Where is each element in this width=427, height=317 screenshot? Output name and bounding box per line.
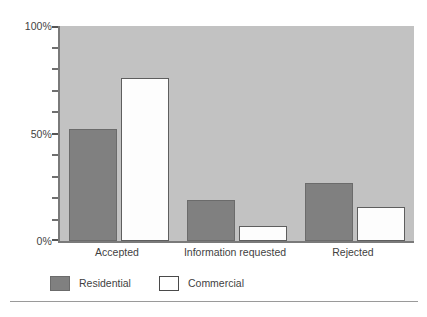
x-axis: AcceptedInformation requestedRejected — [58, 245, 412, 261]
legend-swatch-commercial — [159, 276, 179, 291]
bottom-divider — [10, 301, 418, 302]
y-tick-label: 100% — [0, 21, 52, 32]
bar-commercial-rejected — [357, 207, 405, 241]
legend-entry: Residential — [50, 276, 131, 291]
legend-label: Residential — [79, 277, 131, 289]
x-tick-label: Rejected — [294, 245, 412, 259]
legend-swatch-residential — [50, 276, 70, 291]
bar-residential-rejected — [305, 183, 353, 241]
plot-area — [58, 26, 414, 243]
bar-group — [60, 26, 178, 241]
y-axis: 0%50%100% — [0, 0, 52, 317]
bar-commercial-accepted — [121, 78, 169, 241]
legend-entry: Commercial — [159, 276, 244, 291]
x-tick-label: Information requested — [176, 245, 294, 259]
legend-label: Commercial — [188, 277, 244, 289]
y-tick-label: 50% — [0, 128, 52, 139]
bar-commercial-information-requested — [239, 226, 287, 241]
y-tick-label: 0% — [0, 236, 52, 247]
bar-residential-accepted — [69, 129, 117, 241]
chart-legend: ResidentialCommercial — [50, 274, 272, 292]
bar-group — [296, 26, 414, 241]
bar-group — [178, 26, 296, 241]
bar-residential-information-requested — [187, 200, 235, 241]
x-tick-label: Accepted — [58, 245, 176, 259]
bar-chart-figure: 0%50%100% AcceptedInformation requestedR… — [0, 0, 427, 317]
